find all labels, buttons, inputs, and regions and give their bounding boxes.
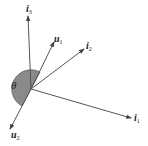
vector-diagram: i3 u1 i2 i1 u2 θ [0, 0, 148, 146]
vector-u1 [31, 42, 54, 89]
vector-i1 [31, 89, 131, 118]
label-u1: u1 [54, 34, 63, 45]
label-i1: i1 [134, 113, 140, 124]
vector-i2 [31, 49, 84, 89]
diagram-graphics [0, 0, 148, 146]
label-theta: θ [11, 80, 16, 91]
label-i2: i2 [86, 41, 92, 52]
label-u2: u2 [11, 130, 20, 141]
label-i3: i3 [26, 4, 32, 15]
